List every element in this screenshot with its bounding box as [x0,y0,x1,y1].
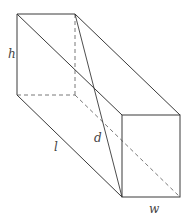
label-diagonal: d [94,131,102,145]
bottom-left-long-edge [17,95,122,197]
top-left-long-edge [17,14,122,115]
top-right-long-edge [75,14,180,115]
label-length: l [54,140,58,154]
label-width: w [149,202,160,216]
front-face [122,115,180,197]
label-height: h [8,47,16,61]
space-diagonal [75,14,122,197]
prism-diagram: h l d w [0,0,191,223]
bottom-right-hidden-long-edge [75,95,180,197]
